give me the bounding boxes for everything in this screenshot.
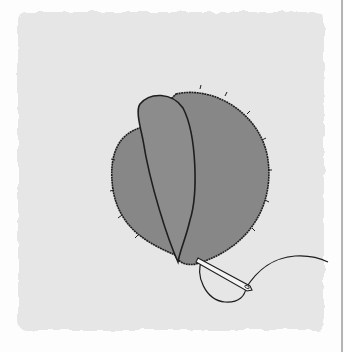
applique-illustration [0, 0, 344, 352]
illustration-frame [0, 0, 344, 352]
edge-line [341, 0, 343, 352]
